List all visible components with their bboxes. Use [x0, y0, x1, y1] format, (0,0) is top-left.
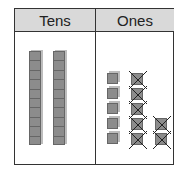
- crossed-out-cube: [131, 133, 143, 145]
- column-divider: [95, 9, 96, 164]
- unit-cube: [107, 73, 118, 84]
- crossed-out-cube: [131, 88, 143, 100]
- unit-cube: [107, 88, 118, 99]
- place-value-table: Tens Ones: [14, 8, 174, 165]
- unit-cube: [107, 118, 118, 129]
- tens-header: Tens: [15, 9, 96, 32]
- crossed-out-cube: [131, 103, 143, 115]
- ones-header: Ones: [96, 9, 174, 32]
- ten-rod-2: [53, 51, 65, 145]
- unit-cube: [107, 103, 118, 114]
- crossed-out-cube: [155, 118, 167, 130]
- crossed-out-cube: [131, 118, 143, 130]
- ten-rod-1: [29, 51, 41, 145]
- crossed-out-cube: [155, 133, 167, 145]
- unit-cube: [107, 133, 118, 144]
- crossed-out-cube: [131, 73, 143, 85]
